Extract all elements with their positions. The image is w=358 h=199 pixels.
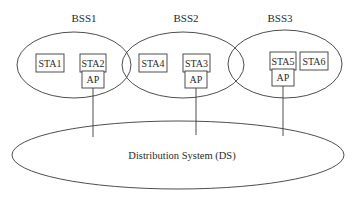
sta1-label: STA1 [38,58,61,69]
bss1-ellipse [17,32,131,98]
wlan-architecture-diagram: BSS1 BSS2 BSS3 STA1 STA2 AP STA4 STA3 AP… [0,0,358,199]
sta2-label: STA2 [81,58,104,69]
sta3-label: STA3 [185,58,208,69]
bss1-label: BSS1 [71,12,96,24]
sta5-label: STA5 [271,56,294,67]
bss3-label: BSS3 [267,12,293,24]
ap2-label: AP [190,74,203,85]
ap1-label: AP [87,74,100,85]
ds-label: Distribution System (DS) [128,150,236,162]
bss2-label: BSS2 [173,12,198,24]
sta6-label: STA6 [302,56,325,67]
sta4-label: STA4 [141,58,164,69]
ap3-label: AP [277,72,290,83]
